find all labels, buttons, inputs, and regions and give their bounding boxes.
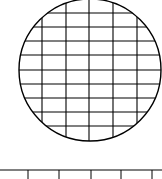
- circular-grid-diagram: [0, 0, 162, 179]
- scale-bar: [0, 170, 162, 179]
